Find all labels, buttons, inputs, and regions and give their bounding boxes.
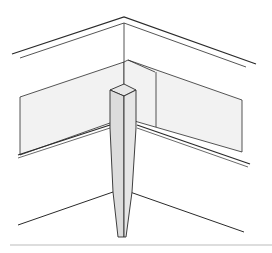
corner-joint-illustration bbox=[0, 0, 272, 253]
corner-post bbox=[110, 84, 136, 237]
